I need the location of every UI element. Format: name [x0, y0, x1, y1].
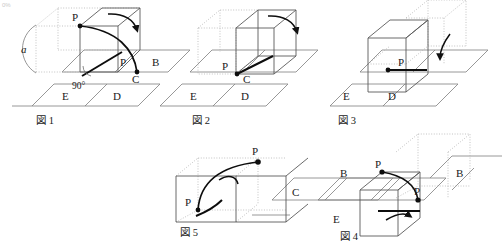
fig5-p-trajectory — [198, 162, 258, 210]
fig4-ground-band — [318, 156, 502, 200]
fig1-cell-e-label: E — [62, 90, 69, 102]
fig2-cell-c-label: C — [243, 73, 250, 85]
fig4-cell-e-label: E — [333, 213, 340, 225]
fig1-p-top-label: P — [72, 11, 78, 23]
fig5-box-solid — [176, 158, 308, 222]
fig1-cell-d-label: D — [113, 90, 121, 102]
fig1-caption: 図 1 — [36, 115, 54, 126]
fig1-cell-b-label: B — [152, 56, 159, 68]
fig2-p-label: P — [222, 60, 228, 72]
fig5-helper-arc — [219, 177, 238, 184]
figure-1: a 90° P P C B E D 図 1 — [12, 8, 190, 126]
diagram-canvas: a 90° P P C B E D 図 1 — [0, 0, 502, 248]
fig3-cell-e-label: E — [343, 90, 350, 102]
fig5-cell-c-label: C — [292, 186, 299, 198]
figure-5: P P B C 図 5 — [176, 145, 400, 238]
figure-2: P C E D 図 2 — [160, 10, 318, 126]
fig4-cell-b-label: B — [456, 167, 463, 179]
fig5-base-edge — [196, 200, 222, 216]
fig2-cell-d-label: D — [241, 90, 249, 102]
corner-artifact: 0% — [2, 2, 11, 8]
fig3-caption: 図 3 — [338, 115, 356, 126]
fig4-box-hidden — [396, 134, 470, 198]
fig2-rotation-arrow — [268, 16, 297, 32]
geometry-figure-sheet: a 90° P P C B E D 図 1 — [0, 0, 502, 248]
fig1-p-bottom-label: P — [120, 56, 126, 68]
fig4-p-top-label: P — [375, 158, 381, 170]
fig5-p-top-dot — [255, 159, 261, 165]
fig4-p-mid-label: P — [414, 185, 420, 197]
fig4-box-solid — [360, 172, 420, 236]
figure-4: P P B E 図 4 — [318, 134, 502, 242]
fig5-caption: 図 5 — [180, 227, 198, 238]
fig1-cell-c-label: C — [132, 73, 139, 85]
fig4-p-top-dot — [379, 169, 384, 174]
fig1-ground-grid — [12, 84, 160, 106]
fig2-upper-band — [190, 50, 318, 72]
figure-3: P E D 図 3 — [330, 0, 488, 126]
fig2-cell-e-label: E — [190, 90, 197, 102]
fig1-angle-label: 90° — [72, 81, 86, 91]
fig5-cell-b-label: B — [340, 167, 347, 179]
fig1-p-top-dot — [78, 24, 83, 29]
fig5-ground-band — [252, 178, 400, 215]
fig1-arc-a-label: a — [21, 43, 27, 55]
fig2-caption: 図 2 — [192, 115, 210, 126]
fig3-upper-band — [360, 50, 488, 72]
fig4-p-mid-dot — [415, 197, 420, 202]
fig4-caption: 図 4 — [340, 231, 359, 242]
fig2-p-dot — [235, 72, 240, 77]
fig2-ground-grid — [160, 84, 288, 106]
fig3-p-dot — [386, 68, 391, 73]
fig1-p-trajectory — [80, 26, 137, 72]
fig4-p-trajectory — [382, 172, 418, 200]
fig5-p-left-label: P — [185, 196, 191, 208]
fig1-box-solid — [80, 8, 140, 72]
fig5-p-left-dot — [196, 208, 201, 213]
fig3-cell-d-label: D — [388, 90, 396, 102]
fig5-p-top-label: P — [252, 145, 258, 157]
fig3-p-label: P — [398, 56, 404, 68]
fig3-box-hidden — [368, 0, 466, 64]
